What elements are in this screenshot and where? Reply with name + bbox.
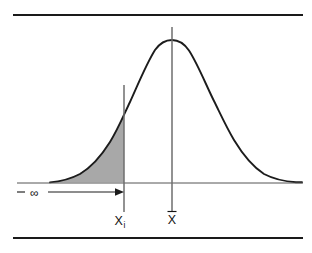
cutoff-tick-label-base: X [114,214,123,228]
distribution-diagram: ∞ Xi X [0,0,312,253]
lower-bound-label: ∞ [30,186,39,200]
bell-curve-path [50,40,302,182]
cutoff-tick-label: Xi [114,214,125,230]
mean-tick-label: X [168,213,177,227]
normal-distribution-figure: ∞ Xi X [0,0,312,253]
lower-bound-arrow-head [115,188,124,196]
cutoff-tick-label-subscript: i [123,220,125,230]
shaded-tail-area [52,115,124,183]
